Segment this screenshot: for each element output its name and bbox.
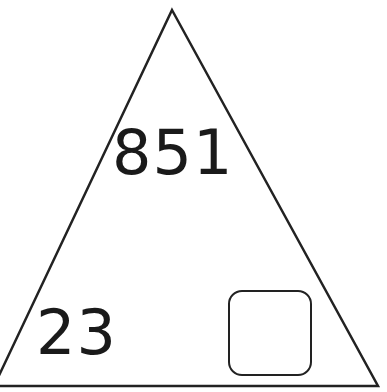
- answer-box[interactable]: [228, 290, 312, 376]
- bottom-left-number: 23: [36, 302, 117, 364]
- top-number: 851: [112, 122, 233, 184]
